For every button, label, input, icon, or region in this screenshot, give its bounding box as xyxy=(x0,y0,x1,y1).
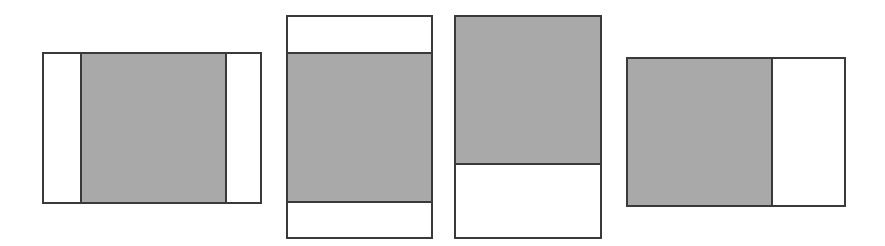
divider-horizontal xyxy=(456,163,600,165)
frame-top-aligned xyxy=(454,15,602,239)
fill-region xyxy=(456,17,600,164)
divider-left xyxy=(80,54,82,202)
divider-bottom xyxy=(288,201,431,203)
fill-region xyxy=(288,52,431,202)
frame-letterbox xyxy=(286,15,433,239)
fill-region xyxy=(628,59,772,205)
divider-top xyxy=(288,52,431,54)
divider-vertical xyxy=(771,59,773,205)
frame-left-aligned xyxy=(626,57,846,207)
divider-right xyxy=(225,54,227,202)
frame-pillarbox xyxy=(42,52,262,204)
fill-region xyxy=(80,54,227,202)
